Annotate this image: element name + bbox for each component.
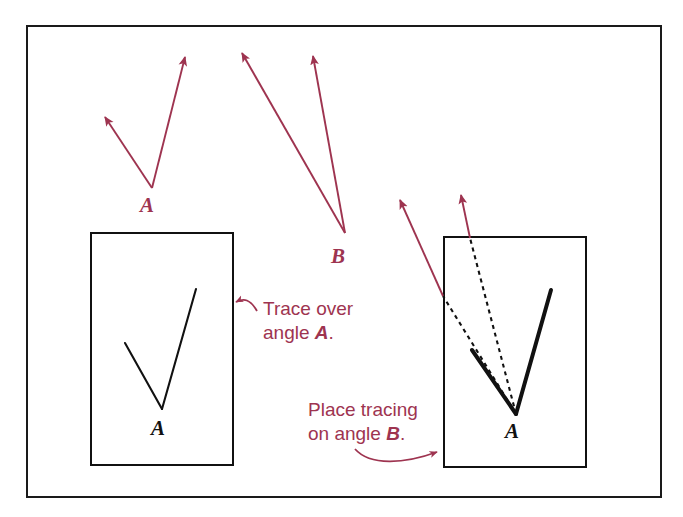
place-tracing-callout-line2-plain: on angle	[308, 423, 386, 444]
trace-over-callout-line2-italic: A	[314, 322, 329, 343]
right-card-vertex-label: A	[503, 419, 519, 443]
angle-a-vertex-label: A	[138, 193, 154, 217]
trace-over-callout-line2-period: .	[329, 322, 334, 343]
angle-tracing-figure: A B A A	[0, 0, 683, 517]
angle-b-vertex-label: B	[330, 244, 345, 268]
place-tracing-callout-line2-period: .	[400, 423, 405, 444]
place-tracing-callout-line2: on angle B.	[308, 423, 405, 444]
tracing-paper-right: A	[443, 237, 586, 467]
left-card-vertex-label: A	[149, 416, 165, 440]
figure-canvas: A B A A	[0, 0, 683, 517]
trace-over-callout-line2-plain: angle	[263, 322, 315, 343]
place-tracing-callout-line1: Place tracing	[308, 399, 418, 420]
trace-over-callout-line1: Trace over	[263, 298, 354, 319]
place-tracing-callout-line2-italic: B	[386, 423, 400, 444]
tracing-paper-left: A	[91, 233, 233, 465]
trace-over-callout-line2: angle A.	[263, 322, 334, 343]
